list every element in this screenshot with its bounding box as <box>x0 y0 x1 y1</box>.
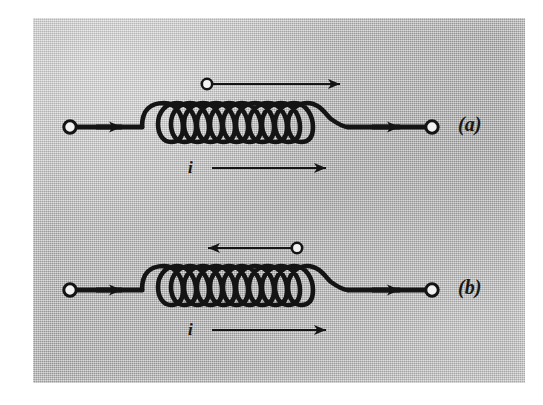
diagram-label-b: (b) <box>458 276 481 299</box>
current-label-a: i <box>188 158 193 178</box>
circuit-artwork <box>0 0 543 405</box>
right-terminal-a <box>426 121 438 133</box>
diagram-a <box>64 79 438 168</box>
flux-arrow-origin-dot-a <box>202 79 212 89</box>
diagram-label-a: (a) <box>458 113 481 136</box>
solenoid-coil-a <box>142 103 348 142</box>
left-terminal-b <box>64 284 76 296</box>
solenoid-coil-b <box>142 266 348 305</box>
left-terminal-a <box>64 121 76 133</box>
right-terminal-b <box>426 284 438 296</box>
flux-arrow-origin-dot-b <box>292 243 302 253</box>
current-label-b: i <box>188 320 193 340</box>
figure-page: (a) (b) i i <box>0 0 543 405</box>
diagram-b <box>64 243 438 330</box>
